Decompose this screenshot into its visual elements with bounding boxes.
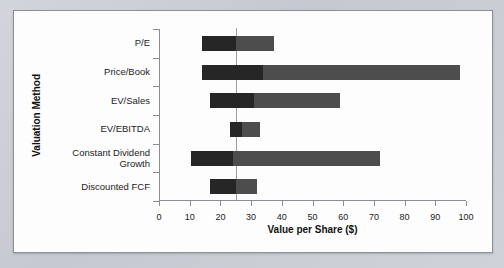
- x-axis-tick-label: 50: [307, 212, 317, 222]
- bar-segment-high: [254, 93, 340, 108]
- bar-segment-low: [202, 36, 236, 51]
- x-axis-tick: [374, 201, 375, 206]
- x-axis-tick: [405, 201, 406, 206]
- category-label: EV/EBITDA: [100, 124, 150, 136]
- bar-segment-high: [233, 151, 380, 166]
- bar-row: Constant Dividend Growth: [159, 144, 466, 173]
- bar-segment-high: [242, 122, 260, 137]
- category-label: EV/Sales: [111, 95, 150, 107]
- bar-segment-low: [210, 93, 255, 108]
- valuation-range-bar: [202, 36, 274, 51]
- x-axis-tick: [159, 201, 160, 206]
- bar-row: Price/Book: [159, 58, 466, 87]
- x-axis-tick: [435, 201, 436, 206]
- x-axis-tick-label: 90: [430, 212, 440, 222]
- x-axis-tick: [313, 201, 314, 206]
- x-axis-tick-label: 40: [277, 212, 287, 222]
- screenshot-canvas: Valuation Method 0102030405060708090100 …: [0, 0, 504, 268]
- x-axis-tick-label: 20: [215, 212, 225, 222]
- category-label: Constant Dividend Growth: [72, 146, 150, 169]
- bar-segment-high: [236, 36, 274, 51]
- valuation-range-bar: [210, 179, 258, 194]
- x-axis-tick-label: 60: [338, 212, 348, 222]
- bar-segment-high: [236, 179, 257, 194]
- category-label: P/E: [135, 38, 150, 50]
- category-label: Price/Book: [104, 66, 150, 78]
- valuation-range-bar: [210, 93, 340, 108]
- bar-segment-low: [202, 65, 263, 80]
- bar-row: P/E: [159, 29, 466, 58]
- x-axis-tick-label: 80: [400, 212, 410, 222]
- x-axis-tick-label: 10: [185, 212, 195, 222]
- bar-row: EV/EBITDA: [159, 115, 466, 144]
- x-axis-title: Value per Share ($): [159, 224, 466, 235]
- bar-segment-low: [230, 122, 242, 137]
- valuation-range-bar: [191, 151, 380, 166]
- x-axis-tick: [343, 201, 344, 206]
- x-axis-tick: [466, 201, 467, 206]
- x-axis-tick-label: 0: [156, 212, 161, 222]
- bar-row: Discounted FCF: [159, 172, 466, 201]
- x-axis-title-text: Value per Share ($): [267, 224, 357, 235]
- category-label: Discounted FCF: [81, 181, 150, 193]
- valuation-range-bar: [230, 122, 261, 137]
- bar-segment-low: [210, 179, 236, 194]
- bar-row: EV/Sales: [159, 86, 466, 115]
- x-axis-tick: [220, 201, 221, 206]
- bar-segment-low: [191, 151, 232, 166]
- valuation-range-bar: [202, 65, 460, 80]
- x-axis-tick: [282, 201, 283, 206]
- bar-segment-high: [263, 65, 459, 80]
- x-axis-tick-label: 30: [246, 212, 256, 222]
- x-axis-tick-label: 70: [369, 212, 379, 222]
- chart-figure-frame: Valuation Method 0102030405060708090100 …: [13, 10, 493, 253]
- plot-area: 0102030405060708090100 P/EPrice/BookEV/S…: [159, 29, 466, 201]
- x-axis-tick-label: 100: [458, 212, 473, 222]
- y-axis-title: Valuation Method: [31, 29, 42, 201]
- y-axis-title-text: Valuation Method: [31, 74, 42, 157]
- x-axis-tick: [190, 201, 191, 206]
- x-axis-tick: [251, 201, 252, 206]
